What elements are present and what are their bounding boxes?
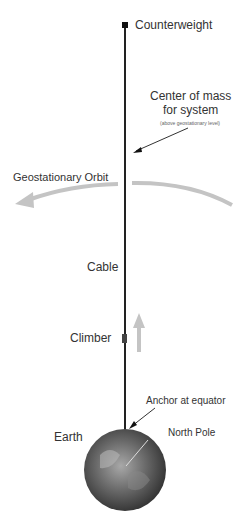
anchor-label: Anchor at equator <box>146 395 226 406</box>
center-of-mass-title-2: for system <box>163 103 218 117</box>
geostationary-orbit-arc-left <box>28 184 118 200</box>
center-of-mass-note: (above geostationary level) <box>160 120 220 126</box>
climber-block <box>122 334 127 343</box>
cable-label: Cable <box>87 260 118 274</box>
center-of-mass-title-1: Center of mass <box>150 89 231 103</box>
orbit-arrowhead <box>15 192 34 208</box>
climber-label: Climber <box>70 331 111 345</box>
counterweight-block <box>122 22 128 28</box>
geostationary-orbit-arc-right <box>132 183 232 205</box>
earth-label: Earth <box>54 430 83 444</box>
counterweight-label: Counterweight <box>135 18 212 32</box>
earth-globe <box>84 429 166 511</box>
center-of-mass-arrow <box>136 128 188 151</box>
anchor-arrowhead <box>129 421 137 429</box>
space-elevator-diagram <box>0 0 246 528</box>
geostationary-orbit-label: Geostationary Orbit <box>13 171 108 183</box>
climber-arrowhead <box>133 313 145 328</box>
north-pole-label: North Pole <box>168 427 215 438</box>
center-of-mass-arrowhead <box>133 147 142 153</box>
